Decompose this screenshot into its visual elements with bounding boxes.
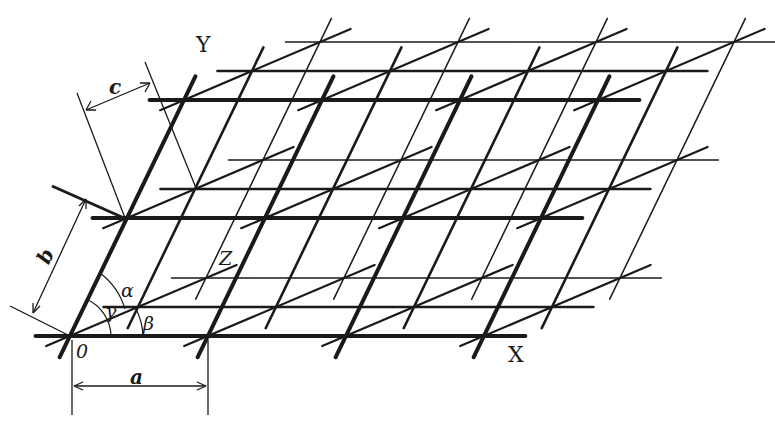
lattice-svg: Y X Z 0 a b c α γ β <box>0 0 775 426</box>
lattice-stack-z <box>460 265 650 346</box>
axis-z-label: Z <box>218 247 233 269</box>
edge-c-label: c <box>109 75 121 99</box>
lattice-lines <box>36 18 775 357</box>
origin-label: 0 <box>76 340 88 362</box>
axis-y-label: Y <box>195 32 211 57</box>
angle-gamma-label: γ <box>105 300 117 322</box>
edge-b-label: b <box>31 245 59 268</box>
crystal-lattice-diagram: Y X Z 0 a b c α γ β <box>0 0 775 426</box>
angle-alpha-label: α <box>121 279 134 301</box>
edge-a-label: a <box>130 365 143 389</box>
angle-beta-label: β <box>142 312 154 334</box>
axis-x-label: X <box>508 342 524 367</box>
lattice-stack-z <box>517 147 707 228</box>
lattice-stack-z <box>574 29 764 110</box>
